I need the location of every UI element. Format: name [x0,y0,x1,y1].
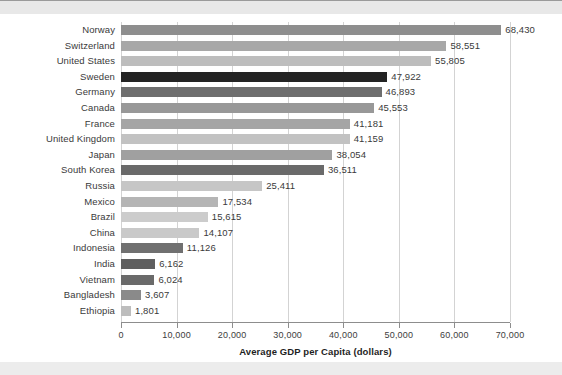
value-label-india: 6,162 [159,258,183,269]
bar-canada [121,103,374,113]
bar-row: United Kingdom41,159 [0,131,562,147]
bar-row: South Korea36,511 [0,162,562,178]
tick-mark [288,323,289,328]
bar-row: Indonesia11,126 [0,240,562,256]
tick-mark [510,323,511,328]
category-label-ethiopia: Ethiopia [0,305,115,316]
value-label-switzerland: 58,551 [450,40,480,51]
bar-row: Ethiopia1,801 [0,303,562,319]
value-label-russia: 25,411 [266,180,295,191]
x-tick-label: 60,000 [440,330,469,340]
value-label-indonesia: 11,126 [187,242,216,253]
category-label-france: France [0,118,115,129]
bar-row: Canada45,553 [0,100,562,116]
category-label-bangladesh: Bangladesh [0,289,115,300]
value-label-south-korea: 36,511 [328,164,357,175]
category-label-sweden: Sweden [0,71,115,82]
bar-norway [121,25,501,35]
category-label-south-korea: South Korea [0,164,115,175]
value-label-sweden: 47,922 [391,71,421,82]
bar-row: Japan38,054 [0,147,562,163]
x-tick-label: 70,000 [496,330,525,340]
value-label-ethiopia: 1,801 [135,305,159,316]
value-label-china: 14,107 [203,227,233,238]
value-label-norway: 68,430 [505,24,535,35]
chart-screenshot: Norway68,430Switzerland58,551United Stat… [0,0,562,375]
x-tick-label: 20,000 [218,330,247,340]
value-label-canada: 45,553 [378,102,408,113]
bar-row: Bangladesh3,607 [0,287,562,303]
tick-mark [343,323,344,328]
x-axis-title: Average GDP per Capita (dollars) [121,346,510,357]
bar-united-kingdom [121,134,350,144]
bar-bangladesh [121,290,141,300]
x-tick-label: 30,000 [273,330,302,340]
bar-mexico [121,197,218,207]
category-label-norway: Norway [0,24,115,35]
category-label-india: India [0,258,115,269]
value-label-france: 41,181 [354,118,384,129]
bar-united-states [121,56,431,66]
bar-germany [121,87,382,97]
bar-japan [121,150,332,160]
bar-russia [121,181,262,191]
bar-row: Brazil15,615 [0,209,562,225]
category-label-japan: Japan [0,149,115,160]
bar-china [121,228,199,238]
category-label-indonesia: Indonesia [0,242,115,253]
category-label-russia: Russia [0,180,115,191]
bar-row: India6,162 [0,256,562,272]
bar-south-korea [121,165,324,175]
x-tick-label: 10,000 [162,330,191,340]
bar-row: Norway68,430 [0,22,562,38]
value-label-united-states: 55,805 [435,55,465,66]
bar-indonesia [121,243,183,253]
x-tick-label: 50,000 [384,330,413,340]
value-label-bangladesh: 3,607 [145,289,169,300]
x-tick-label: 0 [118,330,123,340]
value-label-brazil: 15,615 [212,211,242,222]
bar-ethiopia [121,306,131,316]
tick-mark [454,323,455,328]
bar-switzerland [121,41,446,51]
bar-row: Russia25,411 [0,178,562,194]
category-label-germany: Germany [0,86,115,97]
bar-row: Germany46,893 [0,84,562,100]
category-label-mexico: Mexico [0,196,115,207]
category-label-canada: Canada [0,102,115,113]
tick-mark [177,323,178,328]
bar-row: France41,181 [0,116,562,132]
bar-india [121,259,155,269]
bar-vietnam [121,275,154,285]
tick-mark [121,323,122,328]
category-label-vietnam: Vietnam [0,274,115,285]
bar-row: Sweden47,922 [0,69,562,85]
value-label-japan: 38,054 [336,149,366,160]
bar-row: China14,107 [0,225,562,241]
value-label-vietnam: 6,024 [158,274,182,285]
bar-row: Switzerland58,551 [0,38,562,54]
category-label-switzerland: Switzerland [0,40,115,51]
bar-france [121,119,350,129]
x-tick-label: 40,000 [329,330,358,340]
bar-row: Vietnam6,024 [0,272,562,288]
bar-row: United States55,805 [0,53,562,69]
page-band-top [0,1,562,14]
value-label-mexico: 17,534 [222,196,252,207]
bar-brazil [121,212,208,222]
tick-mark [399,323,400,328]
value-label-germany: 46,893 [386,86,416,97]
category-label-china: China [0,227,115,238]
bar-chart: Norway68,430Switzerland58,551United Stat… [0,14,562,362]
category-label-united-states: United States [0,55,115,66]
page-band-bottom [0,362,562,375]
value-label-united-kingdom: 41,159 [354,133,384,144]
bar-sweden [121,72,387,82]
category-label-united-kingdom: United Kingdom [0,133,115,144]
x-axis-line [121,322,510,323]
tick-mark [232,323,233,328]
category-label-brazil: Brazil [0,211,115,222]
bar-row: Mexico17,534 [0,194,562,210]
